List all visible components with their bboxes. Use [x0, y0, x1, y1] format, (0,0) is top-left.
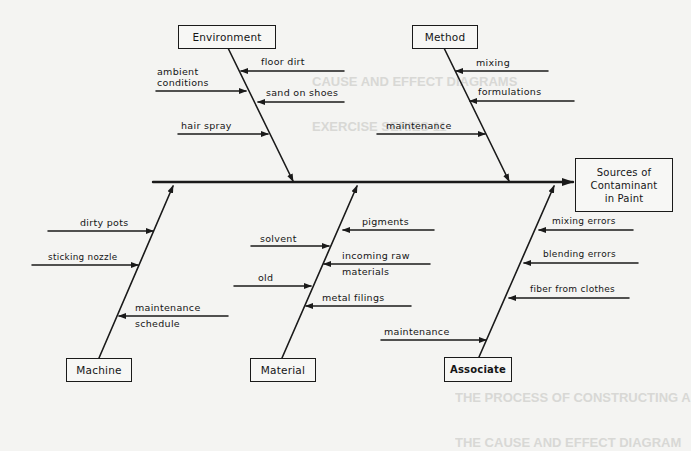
- cause-label-conditions: conditions: [157, 77, 209, 88]
- category-box-method: Method: [412, 25, 478, 49]
- cause-label-dirty-pots: dirty pots: [80, 217, 128, 228]
- cause-label-sticking-nozzle: sticking nozzle: [48, 252, 117, 263]
- category-label-associate: Associate: [450, 364, 506, 375]
- cause-label-metal-filings: metal filings: [322, 292, 384, 303]
- cause-label-mixing-errors: mixing errors: [552, 216, 616, 227]
- cause-label-incoming-raw: incoming raw: [342, 250, 410, 261]
- cause-label-sand-on-shoes: sand on shoes: [266, 87, 338, 98]
- cause-label-fiber-from-clothes: fiber from clothes: [530, 284, 615, 295]
- cause-label-associate-maintenance: maintenance: [384, 326, 450, 337]
- cause-label-blending-errors: blending errors: [543, 249, 616, 260]
- cause-label-old: old: [258, 272, 273, 283]
- cause-label-solvent: solvent: [260, 233, 297, 244]
- effect-line-1: Sources of: [597, 166, 651, 179]
- cause-label-materials: materials: [342, 266, 389, 277]
- cause-label-ambient: ambient: [157, 66, 198, 77]
- cause-label-formulations: formulations: [478, 86, 541, 97]
- category-box-environment: Environment: [178, 25, 276, 49]
- cause-label-schedule: schedule: [135, 318, 180, 329]
- category-label-material: Material: [261, 364, 305, 376]
- category-box-machine: Machine: [66, 358, 132, 382]
- cause-label-floor-dirt: floor dirt: [261, 56, 305, 67]
- effect-line-3: in Paint: [605, 192, 644, 205]
- cause-label-maintenance: maintenance: [135, 302, 201, 313]
- effect-box: Sources of Contaminant in Paint: [575, 158, 673, 212]
- category-box-associate: Associate: [444, 357, 512, 382]
- environment-branch: [228, 48, 293, 181]
- associate-branch: [479, 186, 554, 357]
- machine-branch: [99, 186, 173, 358]
- category-label-environment: Environment: [192, 31, 261, 43]
- category-label-method: Method: [425, 31, 466, 43]
- category-label-machine: Machine: [76, 364, 121, 376]
- cause-label-hair-spray: hair spray: [181, 120, 232, 131]
- cause-label-pigments: pigments: [362, 216, 409, 227]
- cause-label-mixing: mixing: [476, 57, 510, 68]
- effect-line-2: Contaminant: [591, 179, 658, 192]
- bleed-footer-line: THE CAUSE AND EFFECT DIAGRAM: [455, 435, 691, 450]
- category-box-material: Material: [250, 358, 316, 382]
- cause-label-method-maintenance: maintenance: [386, 120, 452, 131]
